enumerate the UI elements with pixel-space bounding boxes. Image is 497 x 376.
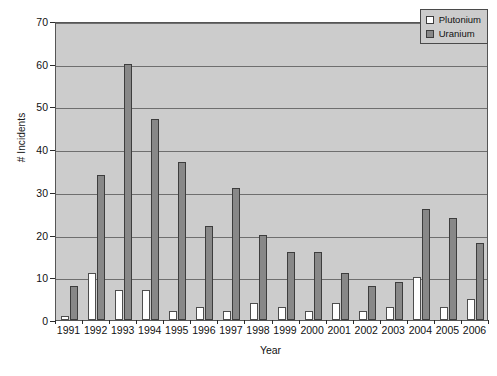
x-tick-mark xyxy=(190,320,191,324)
bar-plutonium-1993 xyxy=(115,290,123,320)
year-group xyxy=(327,23,354,320)
bar-plutonium-2005 xyxy=(440,307,448,320)
bar-plutonium-2004 xyxy=(413,277,421,320)
y-tick-label: 30 xyxy=(18,187,48,199)
bar-uranium-2006 xyxy=(476,243,484,320)
y-axis-tick-labels: 010203040506070 xyxy=(18,22,48,319)
year-group xyxy=(191,23,218,320)
bar-uranium-1993 xyxy=(124,64,132,320)
x-tick-mark xyxy=(82,320,83,324)
x-tick-mark xyxy=(434,320,435,324)
x-tick-mark xyxy=(244,320,245,324)
x-tick-label: 1997 xyxy=(219,324,242,336)
y-tick-label: 20 xyxy=(18,230,48,242)
x-tick-label: 2003 xyxy=(382,324,405,336)
x-tick-label: 1991 xyxy=(57,324,80,336)
bar-uranium-1998 xyxy=(259,235,267,320)
x-tick-label: 2006 xyxy=(463,324,486,336)
year-group xyxy=(110,23,137,320)
plot-area xyxy=(55,22,488,321)
bar-uranium-2000 xyxy=(314,252,322,320)
legend-label-uranium: Uranium xyxy=(439,28,475,39)
year-group xyxy=(435,23,462,320)
bar-plutonium-1999 xyxy=(278,307,286,320)
bar-plutonium-1995 xyxy=(169,311,177,320)
year-group xyxy=(462,23,489,320)
x-tick-mark xyxy=(353,320,354,324)
x-tick-mark xyxy=(163,320,164,324)
y-tick-label: 70 xyxy=(18,16,48,28)
bar-plutonium-1994 xyxy=(142,290,150,320)
x-tick-label: 2005 xyxy=(436,324,459,336)
x-tick-label: 1998 xyxy=(246,324,269,336)
bar-uranium-1994 xyxy=(151,119,159,320)
x-tick-label: 1992 xyxy=(84,324,107,336)
bar-uranium-2001 xyxy=(341,273,349,320)
bar-plutonium-2002 xyxy=(359,311,367,320)
x-tick-mark xyxy=(299,320,300,324)
x-tick-label: 1995 xyxy=(165,324,188,336)
x-tick-label: 2001 xyxy=(327,324,350,336)
bar-plutonium-2000 xyxy=(305,311,313,320)
bar-chart: # Incidents 010203040506070 199119921993… xyxy=(0,0,497,376)
x-axis-title: Year xyxy=(55,344,486,356)
bar-uranium-2002 xyxy=(368,286,376,320)
x-axis-tick-labels: 1991199219931994199519961997199819992000… xyxy=(55,324,488,340)
x-tick-mark xyxy=(326,320,327,324)
y-tick-mark xyxy=(50,150,55,151)
y-tick-mark xyxy=(50,107,55,108)
x-tick-mark xyxy=(136,320,137,324)
x-tick-label: 1996 xyxy=(192,324,215,336)
bar-plutonium-2001 xyxy=(332,303,340,320)
y-tick-label: 10 xyxy=(18,272,48,284)
y-tick-label: 0 xyxy=(18,315,48,327)
bar-uranium-2005 xyxy=(449,218,457,321)
legend-swatch-uranium-icon xyxy=(426,30,434,38)
x-tick-label: 2004 xyxy=(409,324,432,336)
y-tick-mark xyxy=(50,22,55,23)
x-tick-mark xyxy=(217,320,218,324)
legend-item-uranium: Uranium xyxy=(426,28,481,39)
legend-label-plutonium: Plutonium xyxy=(439,14,481,25)
y-tick-mark xyxy=(50,65,55,66)
bar-uranium-1995 xyxy=(178,162,186,320)
bar-plutonium-1996 xyxy=(196,307,204,320)
year-group xyxy=(273,23,300,320)
bar-plutonium-1991 xyxy=(61,316,69,320)
x-tick-mark xyxy=(109,320,110,324)
bar-uranium-1991 xyxy=(70,286,78,320)
bar-plutonium-2006 xyxy=(467,299,475,320)
x-tick-label: 1993 xyxy=(111,324,134,336)
bar-plutonium-1998 xyxy=(250,303,258,320)
x-tick-mark xyxy=(55,320,56,324)
x-tick-mark xyxy=(272,320,273,324)
bar-uranium-1992 xyxy=(97,175,105,320)
y-tick-mark xyxy=(50,278,55,279)
x-tick-mark xyxy=(488,320,489,324)
x-tick-label: 1999 xyxy=(273,324,296,336)
year-group xyxy=(218,23,245,320)
y-tick-mark xyxy=(50,193,55,194)
year-group xyxy=(381,23,408,320)
legend-swatch-plutonium-icon xyxy=(426,16,434,24)
year-group xyxy=(408,23,435,320)
legend-item-plutonium: Plutonium xyxy=(426,14,481,25)
x-tick-mark xyxy=(380,320,381,324)
bar-uranium-1997 xyxy=(232,188,240,320)
bar-uranium-1999 xyxy=(287,252,295,320)
bar-plutonium-1992 xyxy=(88,273,96,320)
x-tick-label: 2000 xyxy=(300,324,323,336)
x-tick-mark xyxy=(461,320,462,324)
x-tick-label: 2002 xyxy=(355,324,378,336)
year-group xyxy=(300,23,327,320)
y-tick-label: 50 xyxy=(18,101,48,113)
x-tick-label: 1994 xyxy=(138,324,161,336)
chart-legend: Plutonium Uranium xyxy=(420,9,488,44)
bar-plutonium-2003 xyxy=(386,307,394,320)
year-group xyxy=(137,23,164,320)
bar-plutonium-1997 xyxy=(223,311,231,320)
bars-layer xyxy=(56,23,487,320)
bar-uranium-2004 xyxy=(422,209,430,320)
y-tick-label: 60 xyxy=(18,59,48,71)
y-tick-mark xyxy=(50,236,55,237)
